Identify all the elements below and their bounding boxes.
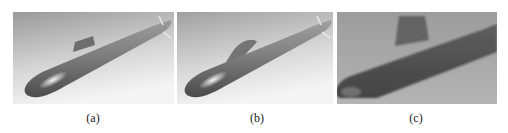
- submarine-photo-image-c: [337, 12, 497, 104]
- submarine-render-image-a: [13, 12, 174, 104]
- submarine-render-image-b: [177, 12, 333, 104]
- panel-a-caption: (a): [73, 111, 113, 126]
- figure-panel-b: [177, 12, 333, 104]
- figure-panel-c: [337, 12, 497, 104]
- figure-panel-a: [13, 12, 174, 104]
- panel-c-caption: (c): [396, 111, 436, 126]
- panel-b-caption: (b): [237, 111, 277, 126]
